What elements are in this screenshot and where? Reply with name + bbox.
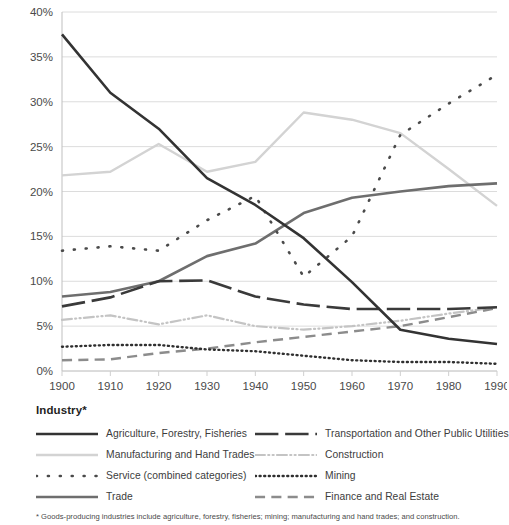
chart-footnote: * Goods-producing industries include agr… <box>36 512 460 521</box>
x-axis-tick-1900: 1900 <box>49 380 75 392</box>
series-line-mining <box>62 345 497 364</box>
legend-swatch-agriculture-forestry-fisheries <box>36 428 98 440</box>
y-axis-tick-40%: 40% <box>30 6 53 18</box>
chart-container: 0%5%10%15%20%25%30%35%40%190019101920193… <box>0 0 507 400</box>
y-axis-tick-30%: 30% <box>30 96 53 108</box>
legend-label-construction: Construction <box>317 449 383 460</box>
y-axis-tick-0%: 0% <box>36 365 53 377</box>
legend-item-finance-and-real-estate[interactable]: Finance and Real Estate <box>255 486 507 507</box>
y-axis-tick-25%: 25% <box>30 141 53 153</box>
legend-item-mining[interactable]: Mining <box>255 465 507 486</box>
y-axis-tick-15%: 15% <box>30 230 53 242</box>
x-axis-tick-1990: 1990 <box>484 380 507 392</box>
legend-label-transportation-and-other-public-utilities: Transportation and Other Public Utilitie… <box>317 428 509 439</box>
x-axis-tick-1980: 1980 <box>436 380 462 392</box>
series-line-transportation-and-other-public-utilities <box>62 280 497 309</box>
legend-swatch-manufacturing-and-hand-trades <box>36 449 98 461</box>
legend-item-agriculture-forestry-fisheries[interactable]: Agriculture, Forestry, Fisheries <box>36 423 255 444</box>
x-axis-tick-1940: 1940 <box>243 380 269 392</box>
series-line-trade <box>62 183 497 296</box>
legend-label-trade: Trade <box>98 491 133 502</box>
y-axis-tick-10%: 10% <box>30 275 53 287</box>
x-axis-tick-1950: 1950 <box>291 380 317 392</box>
legend-item-transportation-and-other-public-utilities[interactable]: Transportation and Other Public Utilitie… <box>255 423 507 444</box>
legend-title: Industry* <box>36 404 507 416</box>
legend-item-service-combined-categories[interactable]: Service (combined categories) <box>36 465 255 486</box>
legend-label-mining: Mining <box>317 470 356 481</box>
chart-legend: Industry* Agriculture, Forestry, Fisheri… <box>0 404 507 507</box>
line-chart: 0%5%10%15%20%25%30%35%40%190019101920193… <box>0 0 507 400</box>
legend-swatch-finance-and-real-estate <box>255 491 317 503</box>
legend-swatch-service-combined-categories <box>36 470 98 482</box>
legend-label-agriculture-forestry-fisheries: Agriculture, Forestry, Fisheries <box>98 428 247 439</box>
legend-swatch-construction <box>255 449 317 461</box>
x-axis-tick-1910: 1910 <box>98 380 124 392</box>
legend-label-service-combined-categories: Service (combined categories) <box>98 470 247 481</box>
legend-swatch-transportation-and-other-public-utilities <box>255 428 317 440</box>
x-axis-tick-1930: 1930 <box>194 380 220 392</box>
legend-label-manufacturing-and-hand-trades: Manufacturing and Hand Trades <box>98 449 255 460</box>
legend-item-manufacturing-and-hand-trades[interactable]: Manufacturing and Hand Trades <box>36 444 255 465</box>
legend-item-construction[interactable]: Construction <box>255 444 507 465</box>
x-axis-tick-1970: 1970 <box>388 380 414 392</box>
legend-columns: Agriculture, Forestry, FisheriesManufact… <box>36 423 507 507</box>
legend-column-right: Transportation and Other Public Utilitie… <box>255 423 507 507</box>
legend-swatch-mining <box>255 470 317 482</box>
x-axis-tick-1960: 1960 <box>339 380 365 392</box>
legend-item-trade[interactable]: Trade <box>36 486 255 507</box>
legend-label-finance-and-real-estate: Finance and Real Estate <box>317 491 439 502</box>
legend-swatch-trade <box>36 491 98 503</box>
y-axis-tick-5%: 5% <box>36 320 53 332</box>
y-axis-tick-20%: 20% <box>30 186 53 198</box>
x-axis-tick-1920: 1920 <box>146 380 172 392</box>
legend-column-left: Agriculture, Forestry, FisheriesManufact… <box>36 423 255 507</box>
y-axis-tick-35%: 35% <box>30 51 53 63</box>
